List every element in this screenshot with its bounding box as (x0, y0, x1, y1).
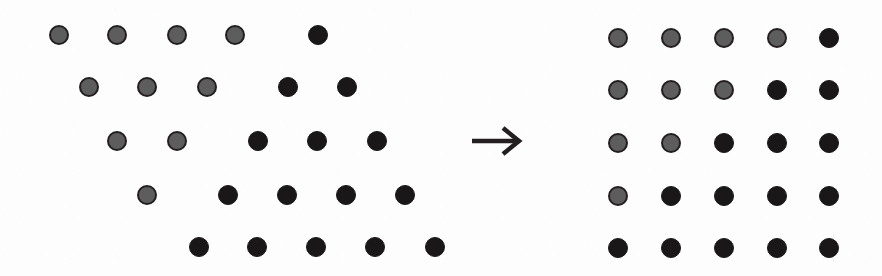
dot-black-r5-c3 (714, 238, 734, 258)
dot-black-r2-c4 (767, 80, 787, 100)
dot-black-r5-c2 (661, 238, 681, 258)
dot-black-r5-c5 (819, 238, 839, 258)
dot-gray-r2-c2 (661, 80, 681, 100)
dot-black-r4-c4 (767, 186, 787, 206)
dot-black-r4-c3 (714, 186, 734, 206)
target-regular-grid-panel (0, 0, 882, 276)
dot-gray-r4-c1 (608, 186, 628, 206)
dot-black-r4-c2 (661, 186, 681, 206)
dot-black-r2-c5 (819, 80, 839, 100)
dot-gray-r2-c3 (714, 80, 734, 100)
dot-black-r1-c5 (819, 28, 839, 48)
dot-gray-r1-c4 (767, 28, 787, 48)
dot-black-r5-c4 (767, 238, 787, 258)
dot-black-r5-c1 (608, 238, 628, 258)
dot-gray-r1-c3 (714, 28, 734, 48)
dot-black-r4-c5 (819, 186, 839, 206)
dot-gray-r1-c1 (608, 28, 628, 48)
dot-gray-r2-c1 (608, 80, 628, 100)
dot-gray-r1-c2 (661, 28, 681, 48)
dot-black-r3-c3 (714, 133, 734, 153)
dot-gray-r3-c2 (661, 133, 681, 153)
dot-gray-r3-c1 (608, 133, 628, 153)
dot-black-r3-c5 (819, 133, 839, 153)
dot-black-r3-c4 (767, 133, 787, 153)
dot-grid-transformation-figure (0, 0, 882, 276)
